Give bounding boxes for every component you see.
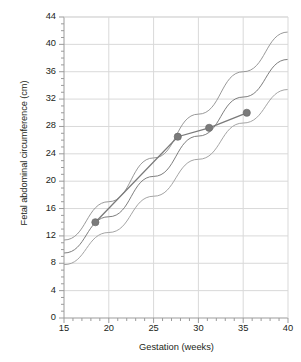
plot-area-background: [64, 17, 288, 318]
y-tick-label: 36: [26, 67, 56, 76]
x-axis-tick-labels: 152025303540: [0, 324, 301, 340]
y-tick-label: 32: [26, 94, 56, 103]
data-point-marker: [206, 124, 213, 131]
x-tick-label: 25: [141, 324, 167, 333]
data-point-marker: [174, 133, 181, 140]
x-axis-title: Gestation (weeks): [64, 342, 289, 352]
x-tick-label: 30: [185, 324, 211, 333]
x-tick-label: 40: [275, 324, 301, 333]
y-tick-label: 20: [26, 176, 56, 185]
y-tick-label: 28: [26, 121, 56, 130]
y-axis-title: Fetal abdominal circumference (cm): [19, 43, 29, 263]
y-tick-label: 0: [26, 313, 56, 322]
y-tick-label: 8: [26, 258, 56, 267]
data-point-marker: [92, 219, 99, 226]
axis-major-ticks: [59, 17, 64, 318]
x-tick-label: 20: [96, 324, 122, 333]
y-tick-label: 44: [26, 12, 56, 21]
x-tick-label: 15: [51, 324, 77, 333]
y-tick-label: 40: [26, 39, 56, 48]
y-tick-label: 24: [26, 149, 56, 158]
data-point-marker: [243, 109, 250, 116]
fetal-growth-chart: 048121620242832364044 152025303540 Fetal…: [0, 0, 301, 362]
x-axis-minor-ticks: [64, 318, 288, 323]
y-tick-label: 4: [26, 286, 56, 295]
y-axis-tick-labels: 048121620242832364044: [26, 0, 56, 362]
x-tick-label: 35: [230, 324, 256, 333]
y-tick-label: 12: [26, 231, 56, 240]
y-tick-label: 16: [26, 204, 56, 213]
